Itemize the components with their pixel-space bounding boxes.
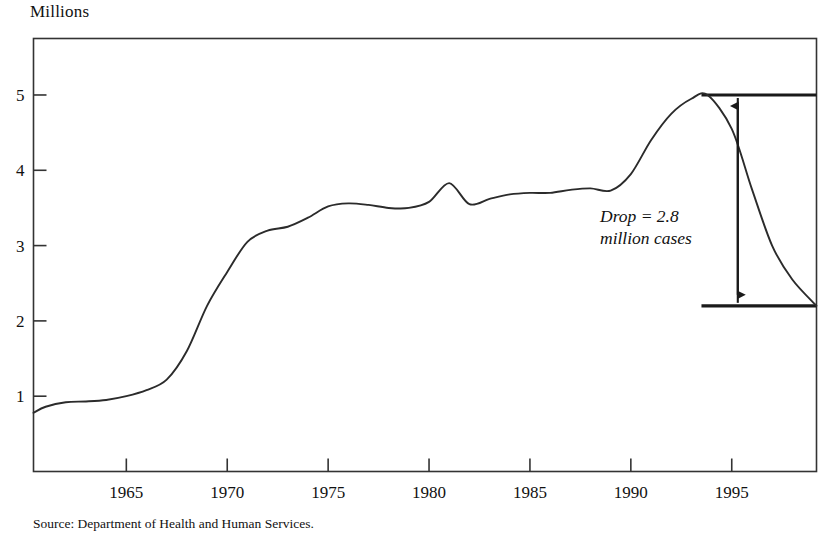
annotation-line-1: Drop = 2.8: [599, 206, 679, 226]
chart-figure: Millions 12345 1965197019751980198519901…: [0, 0, 830, 541]
x-tick-label: 1985: [513, 483, 547, 502]
x-tick-label: 1990: [614, 483, 648, 502]
y-axis-title: Millions: [30, 2, 89, 22]
x-tick-label: 1965: [109, 483, 143, 502]
y-tick-label: 4: [16, 161, 25, 180]
x-tick-label: 1970: [210, 483, 244, 502]
x-tick-label: 1995: [715, 483, 749, 502]
plot-border: [34, 39, 817, 472]
source-note: Source: Department of Health and Human S…: [33, 516, 314, 532]
line-chart-plot: 12345 1965197019751980198519901995 Drop …: [0, 0, 830, 505]
y-tick-label: 1: [16, 387, 25, 406]
x-tick-label: 1980: [412, 483, 446, 502]
y-tick-label: 3: [16, 237, 25, 256]
y-tick-label: 2: [16, 312, 25, 331]
y-tick-label: 5: [16, 86, 25, 105]
x-tick-label: 1975: [311, 483, 345, 502]
annotation-line-2: million cases: [600, 228, 692, 248]
